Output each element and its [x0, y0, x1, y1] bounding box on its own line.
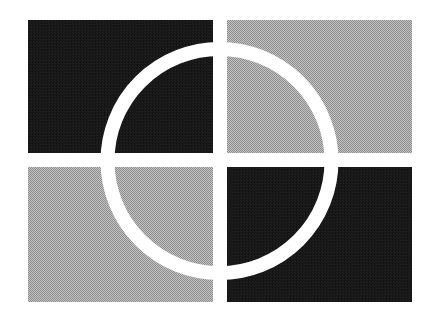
quadrant-bottom-left	[28, 167, 213, 302]
quadrant-top-left	[28, 20, 213, 153]
quadrant-circle-logo	[0, 0, 439, 320]
quadrant-top-right	[227, 20, 412, 153]
quadrant-bottom-right	[227, 167, 412, 302]
logo-canvas	[0, 0, 439, 320]
